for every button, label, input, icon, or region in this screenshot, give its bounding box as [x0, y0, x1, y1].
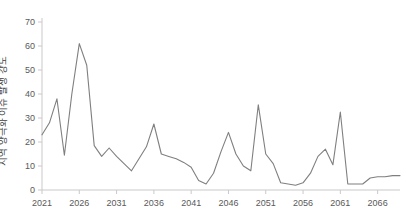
y-tick-label: 50 [25, 65, 35, 75]
x-tick-label: 2031 [107, 198, 127, 208]
x-tick-label: 2066 [368, 198, 388, 208]
y-tick-label: 70 [25, 17, 35, 27]
x-tick-label: 2021 [32, 198, 52, 208]
chart-plot-area: 010203040506070 202120262031203620412046… [0, 0, 406, 222]
x-tick-label: 2046 [218, 198, 238, 208]
y-tick-label: 60 [25, 41, 35, 51]
line-chart: 지역 양극화 이슈 발생 강도 010203040506070 20212026… [0, 0, 406, 222]
data-series-line [42, 44, 400, 186]
x-tick-label: 2041 [181, 198, 201, 208]
y-axis-tick-group: 010203040506070 [25, 17, 42, 195]
x-tick-label: 2056 [293, 198, 313, 208]
x-tick-label: 2061 [330, 198, 350, 208]
x-axis-tick-group: 2021202620312036204120462051205620612066 [32, 190, 388, 208]
x-tick-label: 2051 [256, 198, 276, 208]
y-tick-label: 10 [25, 161, 35, 171]
y-tick-label: 0 [30, 185, 35, 195]
y-tick-label: 20 [25, 137, 35, 147]
y-tick-label: 40 [25, 89, 35, 99]
x-tick-label: 2026 [69, 198, 89, 208]
x-tick-label: 2036 [144, 198, 164, 208]
y-tick-label: 30 [25, 113, 35, 123]
